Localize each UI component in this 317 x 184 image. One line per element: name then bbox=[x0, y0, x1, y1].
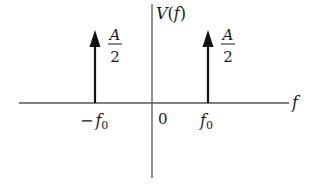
amplitude-numerator: A bbox=[108, 26, 121, 44]
tick-label-positive-f0: f0 bbox=[199, 111, 213, 132]
amplitude-denominator: 2 bbox=[110, 48, 120, 66]
origin-label: 0 bbox=[158, 110, 168, 128]
amplitude-label-left: A 2 bbox=[108, 26, 122, 66]
y-axis-label: V(f) bbox=[156, 4, 186, 23]
amplitude-label-right: A 2 bbox=[221, 26, 235, 66]
impulse-positive-f0 bbox=[203, 30, 214, 103]
arrow-up-icon bbox=[90, 30, 101, 47]
x-axis-label: f bbox=[291, 93, 301, 112]
tick-label-negative-f0: −f0 bbox=[80, 111, 108, 132]
arrow-up-icon bbox=[203, 30, 214, 47]
diagram-svg: V(f) A 2 A 2 −f0 0 f0 f bbox=[0, 0, 317, 184]
amplitude-numerator: A bbox=[221, 26, 234, 44]
impulse-negative-f0 bbox=[90, 30, 101, 103]
spectrum-diagram: V(f) A 2 A 2 −f0 0 f0 f bbox=[0, 0, 317, 184]
amplitude-denominator: 2 bbox=[223, 48, 233, 66]
